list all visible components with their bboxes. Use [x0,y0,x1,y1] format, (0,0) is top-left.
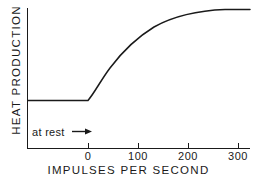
heat-production-chart: 0 100 200 300 IMPULSES PER SECOND HEAT P… [0,0,257,183]
at-rest-arrow-icon [72,129,92,135]
x-tick-label-300: 300 [228,150,248,162]
x-tick-label-200: 200 [178,150,198,162]
x-tick-label-100: 100 [128,150,148,162]
x-axis-label: IMPULSES PER SECOND [0,164,257,176]
x-tick-label-0: 0 [85,150,92,162]
y-axis-label: HEAT PRODUCTION [10,5,22,135]
x-tick-marks [89,143,239,149]
y-axis-label-wrapper: HEAT PRODUCTION [5,0,27,140]
heat-production-curve [28,9,250,100]
at-rest-annotation-label: at rest [32,126,65,138]
